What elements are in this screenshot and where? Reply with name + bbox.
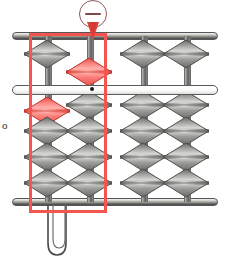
column-highlight-box bbox=[29, 33, 107, 213]
minus-badge-marker[interactable] bbox=[74, 0, 112, 40]
pin-pointer-icon bbox=[87, 22, 99, 40]
minus-icon bbox=[85, 13, 101, 16]
margin-glyph: o bbox=[2, 120, 8, 131]
heaven-bead-c3-1[interactable] bbox=[120, 39, 166, 69]
earth-bead-c3-down-4[interactable] bbox=[120, 168, 166, 198]
heaven-bead-c4-1[interactable] bbox=[163, 39, 209, 69]
earth-bead-c4-down-4[interactable] bbox=[163, 168, 209, 198]
abacus-scene: o bbox=[0, 0, 229, 262]
